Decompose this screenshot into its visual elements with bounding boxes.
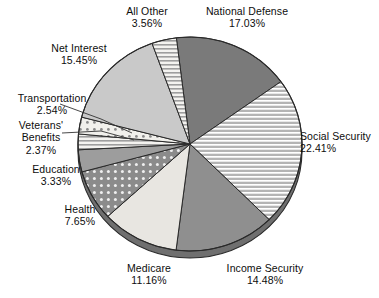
pie-chart-canvas xyxy=(0,0,379,298)
pie-slices-group xyxy=(78,37,302,251)
pie-chart-figure: All Other 3.56% National Defense 17.03% … xyxy=(0,0,379,298)
